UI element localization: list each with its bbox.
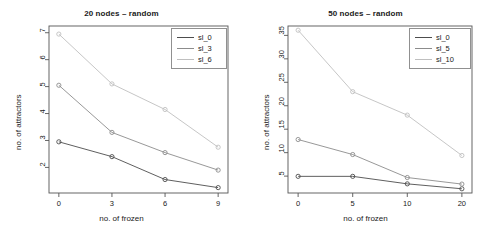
legend-line-swatch	[177, 48, 194, 49]
legend-label: sl_0	[436, 33, 450, 42]
series-line-sl_3	[59, 85, 218, 170]
figure-canvas: 20 nodes – random no. of frozen no. of a…	[0, 0, 487, 235]
panel-right-yaxis-title: no. of attractors	[262, 94, 271, 150]
legend-label: sl_0	[198, 33, 212, 42]
legend-line-swatch	[415, 48, 432, 49]
legend-label: sl_3	[198, 44, 212, 53]
legend-item-sl_3: sl_3	[172, 43, 226, 54]
legend-item-sl_0: sl_0	[172, 32, 226, 43]
legend-item-sl_10: sl_10	[410, 54, 470, 65]
legend-line-swatch	[177, 37, 194, 38]
legend-line-swatch	[415, 37, 432, 38]
panel-left-legend: sl_0sl_3sl_6	[171, 28, 227, 69]
legend-line-swatch	[177, 59, 194, 60]
legend-item-sl_5: sl_5	[410, 43, 470, 54]
chart-panel-left: 20 nodes – random no. of frozen no. of a…	[0, 0, 243, 235]
x-tick-label: 0	[296, 199, 300, 208]
series-line-sl_5	[298, 140, 462, 185]
x-tick-label: 20	[458, 199, 466, 208]
legend-label: sl_10	[436, 55, 454, 64]
x-tick-label: 0	[57, 199, 61, 208]
panel-right-legend: sl_0sl_5sl_10	[409, 28, 471, 69]
data-point	[296, 28, 300, 32]
chart-panel-right: 50 nodes – random no. of frozen sl_0sl_5…	[244, 0, 487, 235]
legend-line-swatch	[415, 59, 432, 60]
series-line-sl_0	[298, 176, 462, 188]
x-tick-label: 9	[216, 199, 220, 208]
x-tick-label: 6	[163, 199, 167, 208]
x-tick-label: 5	[351, 199, 355, 208]
legend-item-sl_6: sl_6	[172, 54, 226, 65]
legend-label: sl_5	[436, 44, 450, 53]
legend-item-sl_0: sl_0	[410, 32, 470, 43]
legend-label: sl_6	[198, 55, 212, 64]
x-tick-label: 10	[403, 199, 411, 208]
series-line-sl_0	[59, 142, 218, 188]
x-tick-label: 3	[110, 199, 114, 208]
